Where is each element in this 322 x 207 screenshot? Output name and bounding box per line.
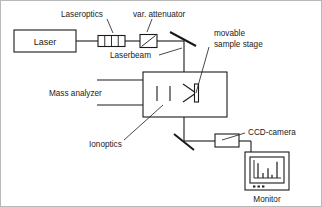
monitor-led-1 bbox=[253, 186, 255, 188]
monitor-label: Monitor bbox=[253, 195, 281, 204]
leader-var-attenuator bbox=[147, 19, 152, 32]
laseroptics-label: Laseroptics bbox=[61, 10, 103, 19]
movable-sample-stage-label-line2: sample stage bbox=[214, 40, 263, 49]
mass-analyzer-label: Mass analyzer bbox=[49, 89, 102, 98]
leader-laseroptics bbox=[107, 19, 113, 33]
monitor-led-2 bbox=[258, 186, 260, 188]
steering-mirror-upper bbox=[170, 32, 196, 46]
leader-laserbeam bbox=[159, 48, 182, 55]
laserbeam-label: Laserbeam bbox=[110, 51, 151, 60]
laser-mass-spectrometer-diagram: Laser Laseroptics var. attenuator Laserb… bbox=[0, 0, 322, 207]
laser-label: Laser bbox=[34, 37, 57, 47]
monitor-indicator-lights bbox=[253, 186, 264, 188]
ccd-camera-label: CCD-camera bbox=[248, 128, 296, 137]
diagram-canvas: Laser Laseroptics var. attenuator Laserb… bbox=[0, 0, 322, 207]
monitor-led-3 bbox=[262, 186, 264, 188]
movable-sample-stage-label-line1: movable bbox=[214, 29, 245, 38]
vacuum-chamber-box bbox=[143, 72, 227, 117]
monitor-screen bbox=[250, 157, 284, 183]
ionoptics-label: Ionoptics bbox=[89, 140, 122, 149]
var-attenuator-label: var. attenuator bbox=[133, 10, 186, 19]
